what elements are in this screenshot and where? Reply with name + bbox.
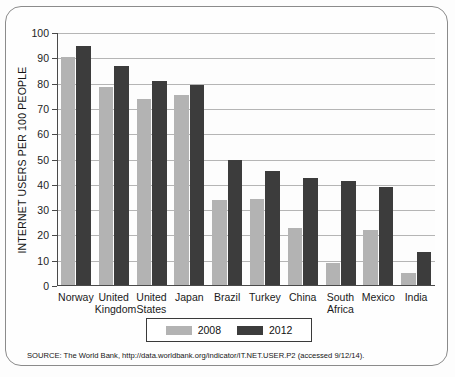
chart-legend: 2008 2012 bbox=[146, 318, 312, 342]
y-tick-label: 20 bbox=[37, 229, 49, 241]
plot-area: 1009080706050403020100 bbox=[57, 33, 435, 286]
bar-2008-japan bbox=[174, 95, 189, 286]
y-tick-label: 40 bbox=[37, 179, 49, 191]
bar-2008-mexico bbox=[363, 230, 378, 286]
x-axis-label-brazil: Brazil bbox=[208, 291, 246, 303]
bar-2012-brazil bbox=[228, 160, 243, 287]
y-tick-label: 70 bbox=[37, 103, 49, 115]
y-axis-line bbox=[57, 33, 58, 286]
bar-2008-united-states bbox=[137, 99, 152, 286]
y-tick-label: 80 bbox=[37, 78, 49, 90]
bar-2008-united-kingdom bbox=[99, 87, 114, 286]
bar-2012-united-states bbox=[152, 81, 167, 286]
y-tick-label: 0 bbox=[43, 280, 49, 292]
bar-2012-mexico bbox=[379, 187, 394, 286]
bar-2012-south-africa bbox=[341, 181, 356, 286]
chart-figure: INTERNET USERS PER 100 PEOPLE 1009080706… bbox=[0, 0, 455, 377]
legend-swatch-2008 bbox=[166, 326, 192, 335]
x-axis-label-turkey: Turkey bbox=[246, 291, 284, 303]
y-axis-title: INTERNET USERS PER 100 PEOPLE bbox=[14, 33, 30, 286]
bar-2012-norway bbox=[76, 46, 91, 286]
bar-2012-united-kingdom bbox=[114, 66, 129, 286]
legend-entry-2012: 2012 bbox=[237, 324, 292, 336]
x-axis-label-mexico: Mexico bbox=[359, 291, 397, 303]
bar-2012-india bbox=[417, 252, 432, 286]
y-axis-title-text: INTERNET USERS PER 100 PEOPLE bbox=[16, 66, 28, 253]
legend-entry-2008: 2008 bbox=[166, 324, 221, 336]
y-tick-label: 100 bbox=[31, 27, 49, 39]
legend-label-2012: 2012 bbox=[269, 324, 292, 336]
bar-2012-turkey bbox=[265, 171, 280, 286]
x-axis-label-south-africa: South Africa bbox=[322, 291, 360, 315]
bar-2008-south-africa bbox=[326, 263, 341, 286]
y-tick-label: 10 bbox=[37, 255, 49, 267]
bar-2012-china bbox=[303, 178, 318, 286]
y-tick-label: 90 bbox=[37, 52, 49, 64]
bar-2008-norway bbox=[61, 57, 76, 286]
x-axis-label-china: China bbox=[284, 291, 322, 303]
bar-2008-turkey bbox=[250, 199, 265, 286]
legend-label-2008: 2008 bbox=[198, 324, 221, 336]
x-axis-label-united-states: United States bbox=[133, 291, 171, 315]
y-tick-label: 30 bbox=[37, 204, 49, 216]
y-tick-label: 50 bbox=[37, 154, 49, 166]
x-axis-label-japan: Japan bbox=[170, 291, 208, 303]
x-axis-label-norway: Norway bbox=[57, 291, 95, 303]
y-tick-label: 60 bbox=[37, 128, 49, 140]
bar-series-container bbox=[57, 33, 435, 286]
bar-2008-brazil bbox=[212, 200, 227, 286]
source-note: SOURCE: The World Bank, http://data.worl… bbox=[27, 351, 364, 360]
bar-2012-japan bbox=[190, 85, 205, 286]
x-axis-line bbox=[57, 285, 435, 286]
legend-swatch-2012 bbox=[237, 326, 263, 335]
bar-2008-china bbox=[288, 228, 303, 286]
x-axis-label-united-kingdom: United Kingdom bbox=[95, 291, 133, 315]
y-tick-mark bbox=[52, 286, 57, 287]
x-axis-label-india: India bbox=[397, 291, 435, 303]
